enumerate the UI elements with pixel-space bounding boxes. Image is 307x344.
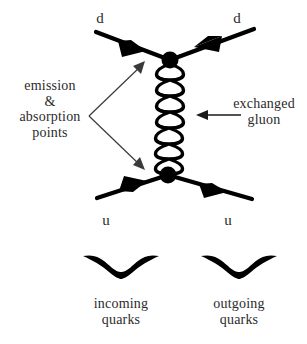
fermion-line-u-outgoing [168, 175, 252, 199]
callout-arrow-absorption-lower [89, 116, 145, 170]
fermion-line-d-incoming [96, 32, 170, 60]
group-label-outgoing-quarks: outgoing quarks [196, 296, 282, 327]
callout-emission-absorption-points: emission & absorption points [6, 78, 94, 141]
fermion-line-d-outgoing [170, 29, 254, 60]
particle-label-u-outgoing: u [218, 212, 238, 229]
feynman-diagram-figure: d d u u emission & absorption points exc… [0, 0, 307, 344]
group-label-incoming-quarks: incoming quarks [78, 296, 164, 327]
brace-outgoing [201, 255, 277, 279]
brace-incoming [83, 255, 159, 279]
vertex-bottom [160, 167, 177, 184]
gluon-propagator [156, 64, 184, 174]
particle-label-d-outgoing: d [227, 10, 247, 27]
particle-label-u-incoming: u [96, 212, 116, 229]
vertex-top [162, 52, 179, 69]
callout-arrow-emission-upper [89, 61, 145, 116]
callout-exchanged-gluon: exchanged gluon [222, 96, 306, 127]
particle-label-d-incoming: d [90, 10, 110, 27]
diagram-canvas [0, 0, 307, 344]
fermion-line-u-incoming [97, 175, 168, 198]
